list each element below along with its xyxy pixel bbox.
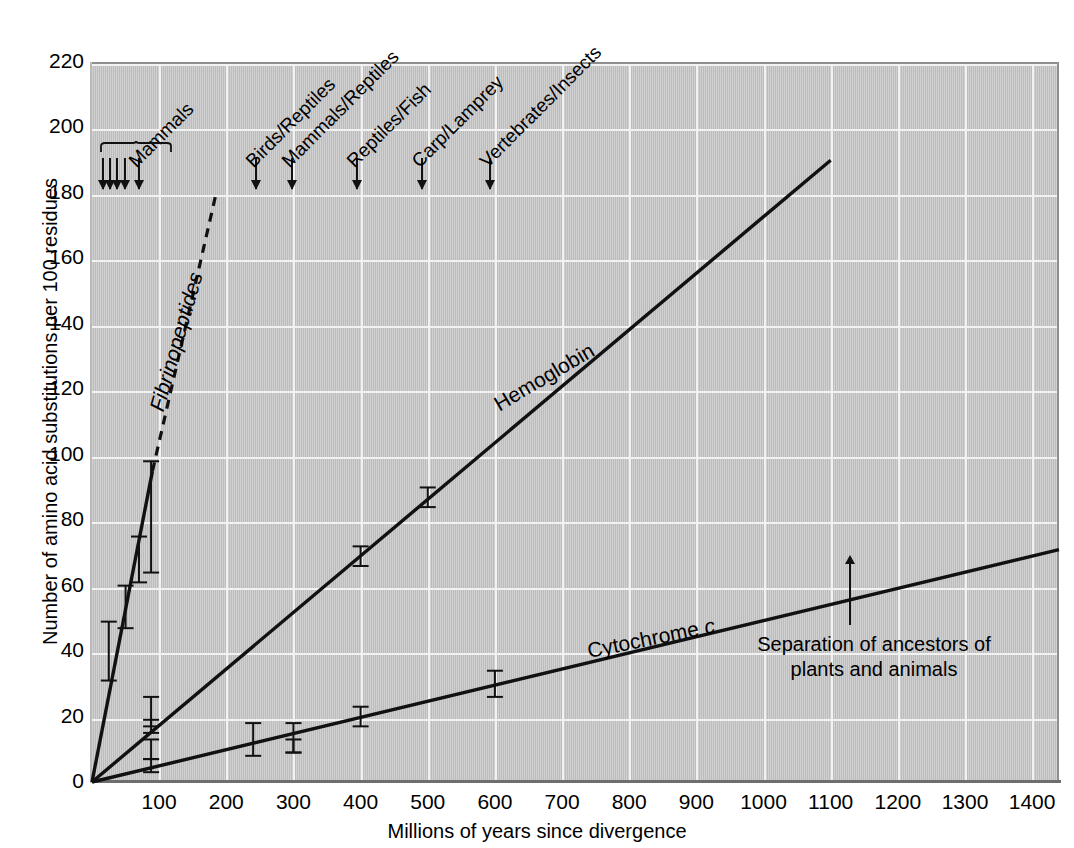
gridline-x-600 [495, 64, 497, 782]
gridline-x-700 [562, 64, 564, 782]
gridline-y-120 [92, 391, 1057, 393]
gridline-x-300 [293, 64, 295, 782]
gridline-x-900 [696, 64, 698, 782]
gridline-y-200 [92, 129, 1057, 131]
separation-annotation-arrow [849, 563, 851, 625]
gridline-x-200 [226, 64, 228, 782]
gridline-y-80 [92, 522, 1057, 524]
gridline-y-60 [92, 588, 1057, 590]
gridline-x-100 [159, 64, 161, 782]
gridline-y-180 [92, 195, 1057, 197]
annotation-line-2: plants and animals [739, 657, 1009, 682]
gridline-x-1400 [1032, 64, 1034, 782]
gridline-x-800 [629, 64, 631, 782]
y-axis-line [90, 62, 92, 783]
gridline-y-160 [92, 260, 1057, 262]
gridline-x-400 [361, 64, 363, 782]
mammals-brace [100, 141, 172, 153]
gridline-y-20 [92, 719, 1057, 721]
divergence-arrow-mammals-2 [116, 158, 118, 189]
divergence-arrow-mammals-1 [109, 158, 111, 189]
x-tick-1400: 1400 [992, 790, 1072, 814]
divergence-arrow-mammals-3 [124, 158, 126, 189]
separation-annotation: Separation of ancestors of plants and an… [739, 632, 1009, 682]
x-axis-title: Millions of years since divergence [0, 820, 1074, 843]
divergence-arrow-mammals-0 [102, 158, 104, 189]
chart-figure: MammalsBirds/ReptilesMammals/ReptilesRep… [0, 0, 1074, 848]
gridline-y-100 [92, 457, 1057, 459]
gridline-y-140 [92, 326, 1057, 328]
x-axis-line [92, 780, 1061, 783]
annotation-line-1: Separation of ancestors of [739, 632, 1009, 657]
gridline-x-500 [428, 64, 430, 782]
y-axis-title: Number of amino acid substitutions per 1… [39, 32, 62, 792]
x-tick-labels: 1002003004005006007008009001000110012001… [0, 790, 1074, 820]
